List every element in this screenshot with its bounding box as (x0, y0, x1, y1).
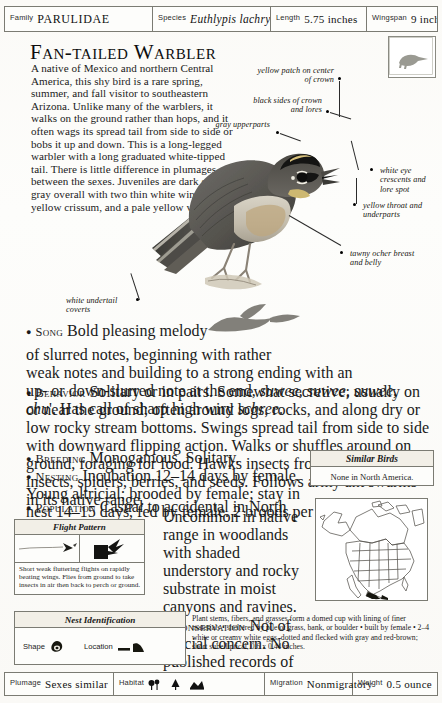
bullet-song: ● (26, 327, 31, 337)
leader-white-eye-crescents (351, 141, 359, 170)
plumage-value: Sexes similar (45, 678, 108, 690)
header-cell-species: Species Euthlypis lachrymosa (153, 7, 271, 31)
callout-black-sides: black sides of crown and lores (244, 96, 322, 115)
nesting-heading: Nesting (35, 470, 78, 484)
nest-location-group: Location (84, 640, 148, 654)
conifer-icon (170, 679, 181, 690)
bullet-population: ● (26, 503, 31, 513)
population-heading: Population (35, 501, 95, 515)
ground-bank-location-icon (118, 640, 148, 654)
footer-cell-plumage: Plumage Sexes similar (5, 673, 114, 695)
range-map (315, 498, 428, 601)
song-text-3: weak notes and building to a strong endi… (26, 364, 430, 382)
family-label: Family (10, 13, 33, 22)
flight-pattern-box: Flight Pattern Short weak fluttering fli… (14, 519, 145, 595)
footer-cell-weight: Weight 0.5 ounce (353, 673, 437, 695)
length-label: Length (276, 13, 300, 22)
wingspan-value: 9 inches (411, 13, 437, 25)
species-header-bar: Family PARULIDAE Species Euthlypis lachr… (4, 6, 438, 32)
callout-yellow-throat: yellow throat and underparts (363, 201, 439, 220)
intro-paragraph: A native of Mexico and northern Central … (31, 62, 239, 213)
footer-cell-migration: Migration Nonmigratory (265, 673, 353, 695)
leader-tawny-breast (289, 215, 341, 246)
head (268, 154, 340, 198)
silhouette-thumbnail (388, 36, 436, 78)
callout-gray-upperparts: gray upperparts (206, 120, 270, 129)
species-label: Species (158, 13, 186, 22)
flight-pattern-caption: Short weak fluttering flights on rapidly… (15, 563, 144, 589)
migration-label: Migration (270, 678, 303, 687)
nest-identification-title: Nest Identification (15, 612, 185, 628)
header-cell-family: Family PARULIDAE (5, 7, 153, 31)
leader-yellow-throat (356, 178, 357, 204)
nest-identification-box: Nest Identification Shape Location (14, 611, 186, 665)
habitat-label: Habitat (119, 678, 144, 687)
breeding-line: ● Breeding Monogamous. Solitary. (26, 449, 326, 467)
flight-takeoff-diagram (80, 535, 144, 562)
similar-birds-body: None in North America. (311, 467, 433, 487)
behavior-heading: Behavior (35, 386, 85, 400)
nest-identification-legend: Shape Location (15, 628, 185, 665)
nest-location-label: Location (84, 642, 113, 651)
flight-pattern-title: Flight Pattern (15, 520, 144, 535)
domed-cup-nest-icon (50, 640, 64, 654)
callout-white-undertail: white undertail coverts (66, 296, 138, 315)
song-heading: Song (35, 325, 63, 339)
bullet-breeding: ● (26, 454, 31, 464)
header-cell-length: Length 5.75 inches (271, 7, 367, 31)
bullet-behavior: ● (26, 388, 31, 398)
field-guide-page: Family PARULIDAE Species Euthlypis lachr… (0, 0, 442, 703)
weight-value: 0.5 ounce (387, 678, 432, 690)
length-value: 5.75 inches (304, 13, 357, 25)
flight-path-diagram (15, 535, 80, 562)
nest-description: Plant stems, fibers, and grasses form a … (192, 614, 434, 652)
rocky-slope-icon (190, 679, 204, 690)
callout-tawny-breast: tawny ocher breast and belly (350, 249, 422, 268)
legs (212, 244, 250, 282)
callout-dot-white-eye-crescents (370, 168, 373, 171)
weight-label: Weight (358, 678, 382, 687)
header-cell-wingspan: Wingspan 9 inches (367, 7, 437, 31)
callout-dot-tawny-breast (340, 251, 343, 254)
breeding-heading: Breeding (35, 452, 85, 466)
callout-yellow-crown: yellow patch on center of crown (250, 66, 334, 85)
footer-cell-habitat: Habitat (114, 673, 265, 695)
species-value: Euthlypis lachrymosa (190, 13, 271, 25)
similar-birds-box: Similar Birds None in North America. (310, 450, 434, 486)
family-value: PARULIDAE (37, 12, 109, 27)
song-text-1: Bold pleasing melody (67, 322, 207, 339)
population-text-2: Uncommon in native range in woodlands wi… (163, 508, 308, 616)
leader-black-sides (330, 112, 351, 119)
wingspan-label: Wingspan (372, 13, 407, 22)
similar-birds-title: Similar Birds (311, 451, 433, 467)
plumage-label: Plumage (10, 678, 41, 687)
section-song-line1: ● Song Bold pleasing melody (26, 322, 226, 340)
bullet-nesting: ● (26, 472, 31, 482)
callout-dot-yellow-crown (338, 77, 341, 80)
nest-shape-group: Shape (23, 640, 64, 654)
leader-gray-upperparts (280, 133, 301, 141)
flight-pattern-panes (15, 535, 144, 563)
tail (152, 214, 214, 274)
song-text-2: of slurred notes, beginning with rather (26, 346, 430, 364)
habitat-icon-group (148, 679, 204, 690)
leader-yellow-crown (339, 81, 340, 117)
callout-white-eye-crescents: white eye crescents and lore spot (380, 166, 440, 194)
breeding-text: Monogamous. Solitary. (90, 449, 240, 466)
shrub-icon (148, 679, 161, 690)
species-footer-bar: Plumage Sexes similar Habitat (4, 672, 438, 696)
nest-shape-label: Shape (23, 642, 45, 651)
